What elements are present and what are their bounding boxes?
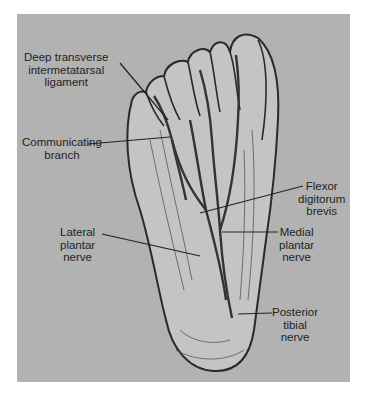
label-flexor-digitorum-brevis: Flexor digitorum brevis (298, 180, 345, 218)
label-communicating-branch: Communicating branch (22, 136, 102, 161)
label-deep-transverse-intermetatarsal-ligament: Deep transverse intermetatarsal ligament (24, 51, 108, 89)
label-medial-plantar-nerve: Medial plantar nerve (279, 226, 314, 264)
label-posterior-tibial-nerve: Posterior tibial nerve (272, 306, 318, 344)
label-lateral-plantar-nerve: Lateral plantar nerve (60, 226, 95, 264)
